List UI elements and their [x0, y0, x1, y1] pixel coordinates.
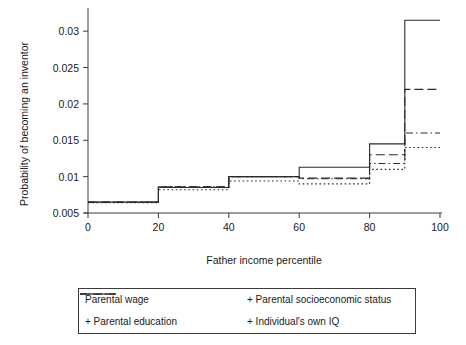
dotted-line-swatch	[79, 289, 117, 299]
chart-figure: Probability of becoming an inventor Fath…	[0, 0, 466, 345]
y-tick-label: 0.02	[59, 98, 80, 110]
x-tick-label: 20	[153, 221, 165, 233]
y-tick-label: 0.015	[53, 134, 79, 146]
y-tick-label: 0.025	[53, 62, 79, 74]
x-tick-label: 40	[223, 221, 235, 233]
legend-item: + Parental education	[85, 317, 247, 327]
legend-label: + Individual's own IQ	[247, 317, 339, 327]
x-tick-label: 0	[85, 221, 91, 233]
legend-item: + Individual's own IQ	[247, 317, 409, 327]
legend-label: + Parental socioeconomic status	[247, 295, 391, 305]
x-tick-label: 80	[364, 221, 376, 233]
x-tick-label: 100	[431, 221, 449, 233]
series-line	[88, 148, 440, 203]
x-tick-label: 60	[293, 221, 305, 233]
chart-legend: Parental wage+ Parental socioeconomic st…	[78, 288, 416, 334]
series-line	[88, 20, 440, 202]
y-tick-label: 0.03	[59, 25, 80, 37]
legend-item: + Parental socioeconomic status	[247, 295, 409, 305]
series-line	[88, 89, 440, 202]
y-tick-label: 0.01	[59, 171, 80, 183]
y-tick-label: 0.005	[53, 207, 79, 219]
legend-label: + Parental education	[85, 317, 177, 327]
